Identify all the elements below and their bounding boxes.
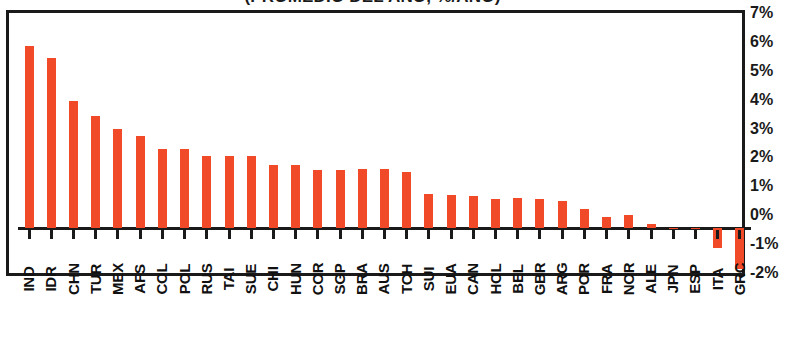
bar-rect — [380, 169, 389, 228]
bar-rect — [158, 149, 167, 228]
y-tick-label: 4% — [750, 92, 797, 108]
bar-rect — [225, 156, 234, 228]
x-tick — [538, 230, 541, 239]
bar-nor — [624, 26, 633, 286]
bar-rect — [113, 129, 122, 229]
x-label-sgp: SGP — [320, 279, 342, 347]
bar-rect — [447, 195, 456, 228]
plot-area — [18, 26, 751, 286]
bar-esp — [691, 26, 700, 286]
bar-sgp — [336, 26, 345, 286]
bar-hol — [491, 26, 500, 286]
x-tick — [183, 230, 186, 239]
x-tick — [694, 230, 697, 239]
bar-arg — [558, 26, 567, 286]
bar-rect — [25, 46, 34, 228]
bar-ind — [25, 26, 34, 286]
x-label-tai: TAI — [209, 279, 231, 347]
bar-rect — [91, 116, 100, 229]
x-label-bel: BEL — [498, 279, 520, 347]
bar-chn — [69, 26, 78, 286]
x-tick — [94, 230, 97, 239]
x-tick — [583, 230, 586, 239]
bar-bel — [513, 26, 522, 286]
bar-tur — [91, 26, 100, 286]
bar-rect — [513, 198, 522, 228]
x-tick — [405, 230, 408, 239]
x-label-idr: IDR — [31, 279, 53, 347]
x-tick — [116, 230, 119, 239]
x-label-text: GRC — [731, 263, 748, 296]
bar-rus — [202, 26, 211, 286]
bar-sui — [424, 26, 433, 286]
bar-col — [158, 26, 167, 286]
x-axis-category-labels: INDIDRCHNTURMEXAFSCOLPOLRUSTAISUECHIHUNC… — [9, 279, 742, 347]
bar-mex — [113, 26, 122, 286]
bar-rect — [580, 209, 589, 228]
x-label-esp: ESP — [675, 279, 697, 347]
x-label-ita: ITA — [698, 279, 720, 347]
bar-rect — [180, 149, 189, 228]
bar-hun — [291, 26, 300, 286]
x-tick — [472, 230, 475, 239]
bar-rect — [535, 199, 544, 228]
bar-eua — [447, 26, 456, 286]
x-tick — [316, 230, 319, 239]
x-label-chn: CHN — [53, 279, 75, 347]
x-label-sue: SUE — [231, 279, 253, 347]
y-tick-label: 3% — [750, 121, 797, 137]
x-label-hun: HUN — [276, 279, 298, 347]
x-label-aus: AUS — [364, 279, 386, 347]
x-label-tch: TCH — [387, 279, 409, 347]
x-tick — [72, 230, 75, 239]
x-label-sui: SUI — [409, 279, 431, 347]
y-tick-label: -1% — [750, 236, 797, 252]
y-tick-label: 5% — [750, 63, 797, 79]
bar-aus — [380, 26, 389, 286]
x-tick — [427, 230, 430, 239]
x-tick — [361, 230, 364, 239]
bar-ale — [647, 26, 656, 286]
x-label-arg: ARG — [542, 279, 564, 347]
bar-rect — [358, 169, 367, 228]
x-tick — [494, 230, 497, 239]
x-tick — [450, 230, 453, 239]
x-label-ind: IND — [9, 279, 31, 347]
x-tick — [672, 230, 675, 239]
x-tick — [161, 230, 164, 239]
x-label-jpn: JPN — [653, 279, 675, 347]
x-label-can: CAN — [453, 279, 475, 347]
bar-rect — [491, 199, 500, 228]
x-tick — [139, 230, 142, 239]
y-tick-label: 2% — [750, 149, 797, 165]
bar-rect — [402, 172, 411, 228]
x-tick — [627, 230, 630, 239]
y-tick-label: -2% — [750, 265, 797, 281]
x-label-hol: HOL — [475, 279, 497, 347]
x-label-cor: COR — [298, 279, 320, 347]
bar-por — [580, 26, 589, 286]
x-label-ale: ALE — [631, 279, 653, 347]
x-label-fra: FRA — [587, 279, 609, 347]
y-tick-label: 7% — [750, 5, 797, 21]
x-label-grc: GRC — [720, 279, 742, 347]
x-label-tur: TUR — [76, 279, 98, 347]
bar-rect — [647, 224, 656, 228]
bar-can — [469, 26, 478, 286]
x-tick — [28, 230, 31, 239]
x-tick — [516, 230, 519, 239]
x-label-rus: RUS — [187, 279, 209, 347]
bar-bra — [358, 26, 367, 286]
x-tick — [250, 230, 253, 239]
x-tick — [50, 230, 53, 239]
bar-gbr — [535, 26, 544, 286]
y-tick-label: 6% — [750, 34, 797, 50]
x-tick — [561, 230, 564, 239]
x-label-col: COL — [142, 279, 164, 347]
plot-frame — [6, 10, 745, 276]
x-tick — [294, 230, 297, 239]
bar-rect — [291, 165, 300, 229]
bar-rect — [469, 196, 478, 228]
bar-sue — [247, 26, 256, 286]
chart-container: (PROMEDIO DEL AÑO, %/AÑO) 7%6%5%4%3%2%1%… — [0, 0, 797, 347]
